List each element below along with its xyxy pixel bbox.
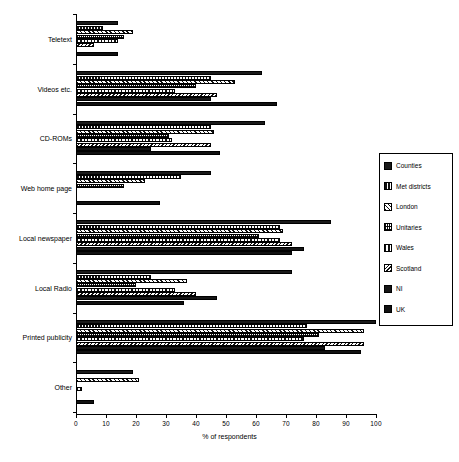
- y-tick: [73, 14, 77, 15]
- legend-item-uk[interactable]: UK: [384, 304, 405, 315]
- legend-item-london[interactable]: London: [384, 201, 418, 212]
- bar: [76, 301, 184, 305]
- y-tick: [73, 64, 77, 65]
- legend-swatch-icon: [384, 264, 392, 272]
- y-tick: [73, 114, 77, 115]
- x-tick-label: 80: [312, 420, 320, 427]
- x-tick: [76, 414, 77, 418]
- bar: [76, 184, 124, 188]
- legend-label: Wales: [396, 244, 414, 251]
- bar-group: [76, 362, 376, 412]
- legend-label: UK: [396, 306, 405, 313]
- x-tick: [346, 414, 347, 418]
- bar-chart: 0102030405060708090100 TeletextVideos et…: [0, 0, 459, 462]
- y-tick: [73, 362, 77, 363]
- legend-swatch-icon: [384, 285, 392, 293]
- x-tick: [316, 414, 317, 418]
- x-tick: [106, 414, 107, 418]
- bar: [76, 251, 292, 255]
- x-tick: [166, 414, 167, 418]
- bar-group: [76, 213, 376, 263]
- x-tick-label: 50: [222, 420, 230, 427]
- legend-item-scotland[interactable]: Scotland: [384, 263, 421, 274]
- y-axis-label-teletext: Teletext: [48, 35, 76, 42]
- x-tick-label: 20: [132, 420, 140, 427]
- y-tick: [73, 263, 77, 264]
- y-axis-label-other: Other: [54, 384, 76, 391]
- bar-group: [76, 64, 376, 114]
- bar: [76, 43, 94, 47]
- legend-swatch-icon: [384, 305, 392, 313]
- x-tick: [256, 414, 257, 418]
- legend-label: Counties: [396, 162, 422, 169]
- bar: [76, 400, 94, 404]
- legend-label: London: [396, 203, 418, 210]
- x-tick: [136, 414, 137, 418]
- plot-area: [76, 14, 376, 412]
- legend-item-wales[interactable]: Wales: [384, 242, 414, 253]
- x-tick: [196, 414, 197, 418]
- y-axis-label-videos-etc: Videos etc.: [37, 85, 76, 92]
- bar: [76, 370, 133, 374]
- x-tick-label: 30: [162, 420, 170, 427]
- legend-label: Unitaries: [396, 224, 422, 231]
- bar: [76, 102, 277, 106]
- x-tick: [286, 414, 287, 418]
- legend-item-ni[interactable]: NI: [384, 283, 403, 294]
- x-tick-label: 70: [282, 420, 290, 427]
- legend-swatch-icon: [384, 244, 392, 252]
- y-tick: [73, 412, 77, 413]
- legend: CountiesMet districtsLondonUnitariesWale…: [379, 153, 453, 326]
- bar: [76, 52, 118, 56]
- y-tick: [73, 163, 77, 164]
- y-axis-label-cd-roms: CD-ROMs: [40, 135, 76, 142]
- x-tick-label: 0: [74, 420, 78, 427]
- x-tick-label: 40: [192, 420, 200, 427]
- legend-swatch-icon: [384, 162, 392, 170]
- bar: [76, 201, 160, 205]
- bar: [76, 350, 361, 354]
- bar-group: [76, 263, 376, 313]
- bar-group: [76, 163, 376, 213]
- x-tick-label: 10: [102, 420, 110, 427]
- x-tick-label: 100: [370, 420, 381, 427]
- x-tick-label: 90: [342, 420, 350, 427]
- bar-group: [76, 114, 376, 164]
- y-axis-label-local-radio: Local Radio: [35, 284, 76, 291]
- legend-label: NI: [396, 285, 403, 292]
- legend-swatch-icon: [384, 203, 392, 211]
- legend-item-counties[interactable]: Counties: [384, 160, 422, 171]
- y-axis-label-local-newspaper: Local newspaper: [19, 234, 76, 241]
- x-tick: [376, 414, 377, 418]
- x-tick: [226, 414, 227, 418]
- x-axis-title: % of respondents: [0, 433, 459, 440]
- legend-item-unitaries[interactable]: Unitaries: [384, 222, 422, 233]
- legend-item-met-districts[interactable]: Met districts: [384, 181, 431, 192]
- legend-label: Scotland: [396, 265, 421, 272]
- x-tick-label: 60: [252, 420, 260, 427]
- y-tick: [73, 213, 77, 214]
- y-axis-label-printed-publicity: Printed publicity: [23, 334, 76, 341]
- bar: [76, 151, 220, 155]
- y-tick: [73, 313, 77, 314]
- legend-swatch-icon: [384, 223, 392, 231]
- bar: [76, 387, 82, 391]
- y-axis-label-web-home-page: Web home page: [21, 185, 76, 192]
- bar-group: [76, 313, 376, 363]
- legend-label: Met districts: [396, 183, 431, 190]
- bar-group: [76, 14, 376, 64]
- bar: [76, 378, 139, 382]
- legend-swatch-icon: [384, 182, 392, 190]
